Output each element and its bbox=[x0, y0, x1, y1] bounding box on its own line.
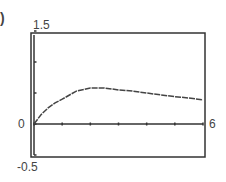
plot-area bbox=[0, 0, 226, 182]
data-curve bbox=[34, 88, 203, 124]
plot-frame bbox=[31, 33, 205, 157]
axes bbox=[34, 31, 203, 155]
